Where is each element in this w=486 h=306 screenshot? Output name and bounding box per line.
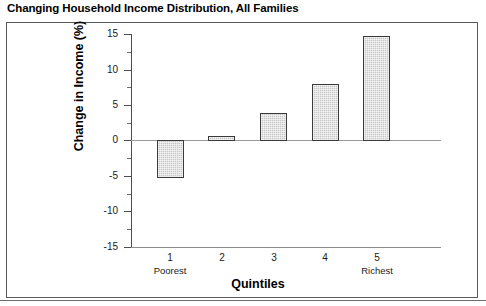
x-tick-note-richest: Richest [342,265,412,276]
x-tick-label-5: 5 [347,252,407,263]
y-tick-major [124,176,131,177]
y-tick-major [124,247,131,248]
y-tick-major [124,70,131,71]
y-tick-label: -10 [88,206,118,216]
y-tick-major [124,211,131,212]
bar-quintile-5 [363,36,390,141]
bar-quintile-2 [208,136,235,141]
x-axis-line [131,247,441,248]
y-tick-minor [127,52,131,53]
y-axis-title: Change in Income (%) [72,6,86,166]
y-tick-major [124,34,131,35]
y-tick-label: 10 [88,65,118,75]
y-tick-minor [127,87,131,88]
x-tick-label-4: 4 [295,252,355,263]
y-tick-label: -5 [88,171,118,181]
y-tick-major [124,105,131,106]
y-tick-label: -15 [88,242,118,252]
bar-quintile-3 [260,113,287,141]
figure-root: Changing Household Income Distribution, … [0,0,486,306]
x-axis-title: Quintiles [131,277,385,291]
y-axis-line [131,34,132,248]
y-tick-major [124,140,131,141]
y-tick-minor [127,123,131,124]
y-tick-label: 0 [88,135,118,145]
x-tick-label-1: 1 [140,252,200,263]
bottom-divider [0,300,486,301]
page-title: Changing Household Income Distribution, … [7,2,298,14]
y-tick-minor [127,158,131,159]
x-tick-label-2: 2 [192,252,252,263]
bar-quintile-1 [157,140,184,178]
y-tick-minor [127,194,131,195]
x-tick-note-poorest: Poorest [135,265,205,276]
y-tick-label: 15 [88,29,118,39]
y-tick-label: 5 [88,100,118,110]
y-tick-minor [127,229,131,230]
bar-quintile-4 [312,84,339,141]
